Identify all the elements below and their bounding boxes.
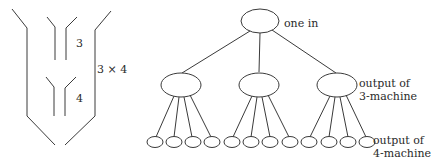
level1-node	[317, 73, 357, 97]
root-node	[241, 9, 279, 33]
label-one-in: one in	[284, 18, 318, 30]
label-3: 3	[76, 38, 83, 50]
label-output-4-line2: 4-machine	[373, 148, 431, 160]
label-4: 4	[76, 93, 83, 105]
funnel-diagram	[12, 9, 111, 145]
label-output-4-line1: output of	[373, 135, 424, 147]
label-output-3-line1: output of	[359, 78, 410, 90]
tree-diagram	[147, 9, 375, 148]
level1-node	[161, 73, 201, 97]
label-output-3-line2: 3-machine	[359, 91, 417, 103]
label-3x4: 3 × 4	[97, 64, 127, 76]
level1-node	[239, 73, 279, 97]
